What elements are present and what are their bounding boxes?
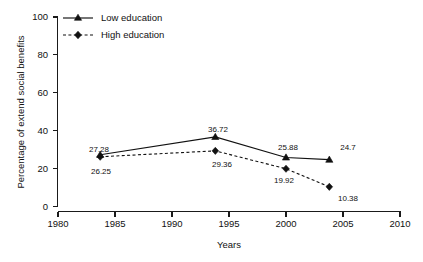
- y-tick-label-100: 100: [32, 11, 48, 22]
- point-label-high-2000: 19.92: [274, 176, 295, 185]
- y-tick-label-80: 80: [37, 49, 48, 60]
- point-label-low-1994: 36.72: [208, 125, 229, 134]
- y-tick-label-40: 40: [37, 125, 48, 136]
- point-label-low-1983: 27.28: [89, 145, 110, 154]
- data-point-high-education: [283, 165, 290, 172]
- point-label-high-1994: 29.36: [212, 160, 233, 169]
- x-tick-label-2005: 2005: [332, 218, 353, 229]
- data-point-high-education: [326, 183, 333, 190]
- x-tick-label-1995: 1995: [218, 218, 239, 229]
- legend-item-high-education[interactable]: High education: [63, 29, 164, 40]
- y-axis-title: Percentage of extend social benefits: [15, 35, 26, 188]
- diamond-marker-icon: [75, 31, 82, 39]
- point-label-low-2000: 25.88: [278, 143, 299, 152]
- triangle-marker-icon: [74, 14, 81, 20]
- point-label-low-2004: 24.7: [340, 143, 356, 152]
- x-axis-title: Years: [217, 239, 241, 250]
- y-axis-ticks: [53, 17, 58, 207]
- x-tick-label-2010: 2010: [389, 218, 410, 229]
- point-label-high-1983: 26.25: [91, 167, 112, 176]
- line-chart: 0 20 40 60 80 100 1980 1985 1990 1995 20…: [0, 0, 423, 262]
- x-tick-label-1985: 1985: [104, 218, 125, 229]
- x-tick-label-1980: 1980: [47, 218, 68, 229]
- chart-legend: Low education High education: [63, 12, 164, 40]
- x-tick-label-1990: 1990: [161, 218, 182, 229]
- x-axis-ticks: [58, 212, 400, 217]
- y-tick-label-20: 20: [37, 163, 48, 174]
- data-point-low-education: [212, 133, 219, 139]
- legend-label-low-education: Low education: [101, 12, 162, 23]
- y-tick-label-0: 0: [43, 201, 48, 212]
- data-point-high-education: [212, 147, 219, 154]
- y-tick-label-60: 60: [37, 87, 48, 98]
- legend-item-low-education[interactable]: Low education: [63, 12, 162, 23]
- legend-label-high-education: High education: [101, 29, 164, 40]
- x-tick-label-2000: 2000: [275, 218, 296, 229]
- chart-container: 0 20 40 60 80 100 1980 1985 1990 1995 20…: [0, 0, 423, 262]
- point-label-high-2004: 10.38: [338, 194, 359, 203]
